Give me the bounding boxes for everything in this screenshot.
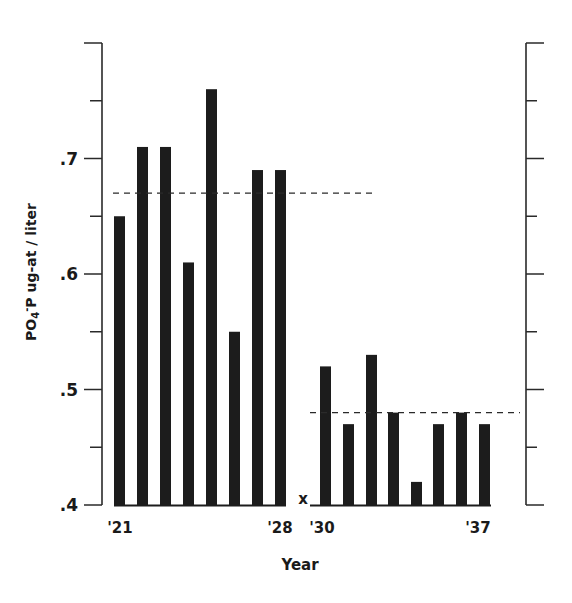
- bar-1936: [456, 413, 467, 505]
- y-tick-labels: .4.5.6.7: [60, 149, 78, 516]
- bars: [114, 89, 490, 505]
- ylabel-main: PO: [23, 319, 39, 341]
- x-tick-label: '28: [267, 519, 292, 537]
- left-y-axis: [84, 43, 102, 505]
- ylabel-rest: P ug-at / liter: [23, 203, 39, 308]
- bar-1928: [275, 170, 286, 505]
- x-axis-title: Year: [280, 556, 319, 574]
- y-tick-label: .5: [60, 380, 78, 400]
- bar-1921: [114, 216, 125, 505]
- bar-1923: [160, 147, 171, 505]
- bar-1931: [343, 424, 354, 505]
- right-y-axis: [526, 43, 544, 505]
- ylabel-subscript: 4: [30, 312, 41, 319]
- bar-1934: [411, 482, 422, 505]
- ylabel-superscript: -: [21, 308, 32, 312]
- x-tick-label: '37: [465, 519, 490, 537]
- bar-1935: [433, 424, 444, 505]
- y-tick-label: .4: [60, 495, 78, 515]
- bar-1933: [388, 413, 399, 505]
- bar-1937: [479, 424, 490, 505]
- mean-lines: [113, 193, 520, 412]
- bar-1922: [137, 147, 148, 505]
- bar-1925: [206, 89, 217, 505]
- bar-1932: [366, 355, 377, 505]
- y-tick-label: .6: [60, 264, 78, 284]
- x-tick-label: '30: [309, 519, 334, 537]
- missing-data-marker: x: [298, 490, 308, 508]
- x-tick-label: '21: [107, 519, 132, 537]
- y-tick-label: .7: [60, 149, 78, 169]
- bar-1927: [252, 170, 263, 505]
- x-tick-labels: '21'28'30'37: [107, 519, 490, 537]
- bar-1930: [320, 366, 331, 505]
- y-axis-title: PO4-P ug-at / liter: [21, 203, 41, 341]
- bar-chart: .4.5.6.7 '21'28'30'37 x Year: [0, 0, 572, 603]
- bar-1926: [229, 332, 240, 505]
- bar-1924: [183, 262, 194, 505]
